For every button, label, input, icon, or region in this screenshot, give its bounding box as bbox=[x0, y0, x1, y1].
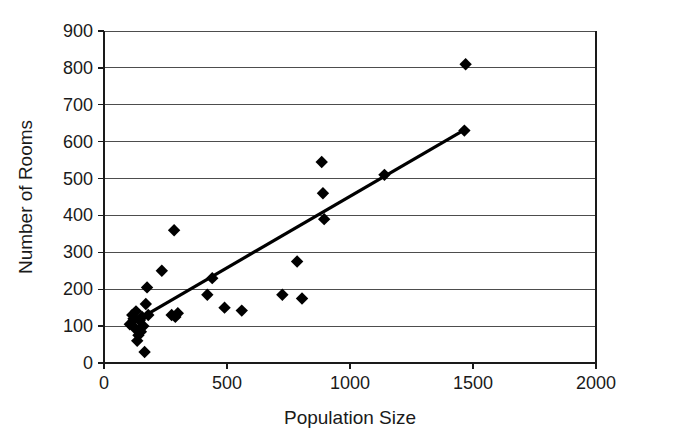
trendline bbox=[130, 130, 465, 324]
x-tick-label-0: 0 bbox=[99, 373, 109, 393]
y-tick-label-900: 900 bbox=[63, 21, 93, 41]
y-tick-label-800: 800 bbox=[63, 58, 93, 78]
x-tick-label-2000: 2000 bbox=[576, 373, 616, 393]
data-point bbox=[236, 304, 248, 316]
data-point-group bbox=[124, 58, 472, 358]
x-tick-group bbox=[104, 363, 596, 369]
y-tick-label-500: 500 bbox=[63, 169, 93, 189]
y-tick-label-group: 0100200300400500600700800900 bbox=[63, 21, 93, 373]
data-point bbox=[156, 265, 168, 277]
data-point bbox=[458, 124, 470, 136]
y-tick-label-0: 0 bbox=[83, 353, 93, 373]
gridline-group bbox=[104, 31, 596, 326]
y-tick-label-300: 300 bbox=[63, 242, 93, 262]
x-tick-label-500: 500 bbox=[212, 373, 242, 393]
x-tick-label-1500: 1500 bbox=[453, 373, 493, 393]
y-tick-label-400: 400 bbox=[63, 205, 93, 225]
data-point bbox=[138, 346, 150, 358]
y-tick-label-100: 100 bbox=[63, 316, 93, 336]
x-tick-label-1000: 1000 bbox=[330, 373, 370, 393]
data-point bbox=[276, 289, 288, 301]
data-point bbox=[291, 255, 303, 267]
data-point bbox=[296, 292, 308, 304]
scatter-plot: 0100200300400500600700800900 05001000150… bbox=[0, 0, 686, 442]
data-point bbox=[218, 301, 230, 313]
y-axis-title: Number of Rooms bbox=[15, 120, 36, 274]
data-point bbox=[140, 298, 152, 310]
data-point bbox=[459, 58, 471, 70]
y-tick-label-700: 700 bbox=[63, 95, 93, 115]
y-tick-group bbox=[98, 31, 104, 363]
y-tick-label-600: 600 bbox=[63, 132, 93, 152]
x-tick-label-group: 0500100015002000 bbox=[99, 373, 616, 393]
data-point bbox=[316, 156, 328, 168]
data-point bbox=[317, 187, 329, 199]
data-point bbox=[141, 281, 153, 293]
y-tick-label-200: 200 bbox=[63, 279, 93, 299]
data-point bbox=[201, 289, 213, 301]
x-axis-title: Population Size bbox=[284, 407, 416, 428]
chart-figure: 0100200300400500600700800900 05001000150… bbox=[0, 0, 686, 442]
data-point bbox=[168, 224, 180, 236]
